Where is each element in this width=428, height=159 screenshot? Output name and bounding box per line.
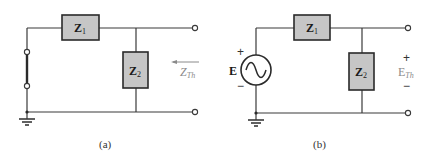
output-terminal-bottom <box>192 109 197 114</box>
output-terminal-bottom <box>405 110 410 115</box>
terminal <box>24 83 29 88</box>
eth-plus: + <box>403 51 410 65</box>
impedance-z2: Z2 <box>123 52 148 88</box>
zth-label: ZTh <box>180 65 195 80</box>
eth-minus: − <box>403 79 410 93</box>
terminal <box>24 49 29 54</box>
caption-b: (b) <box>313 138 326 151</box>
zth-arrow-icon <box>171 60 199 64</box>
output-terminal-top <box>405 25 410 30</box>
source-minus: − <box>237 79 244 93</box>
impedance-z1: Z1 <box>294 15 330 40</box>
ac-source-icon <box>241 55 271 85</box>
circuit-a: Z1 Z2 ZTh (a) <box>19 15 199 151</box>
source-plus: + <box>237 45 244 59</box>
circuit-b: + E − Z1 Z2 + ETh − (b) <box>229 15 414 151</box>
caption-a: (a) <box>99 138 112 151</box>
impedance-z1: Z1 <box>62 15 99 40</box>
ground-icon <box>19 119 35 125</box>
source-label: E <box>229 64 237 78</box>
junction-node <box>25 110 28 113</box>
impedance-z2: Z2 <box>349 53 374 90</box>
eth-label: ETh <box>398 65 414 80</box>
junction-node <box>254 111 257 114</box>
thevenin-diagram: Z1 Z2 ZTh (a) + E − <box>0 0 428 159</box>
ground-icon <box>248 120 264 126</box>
output-terminal-top <box>192 25 197 30</box>
